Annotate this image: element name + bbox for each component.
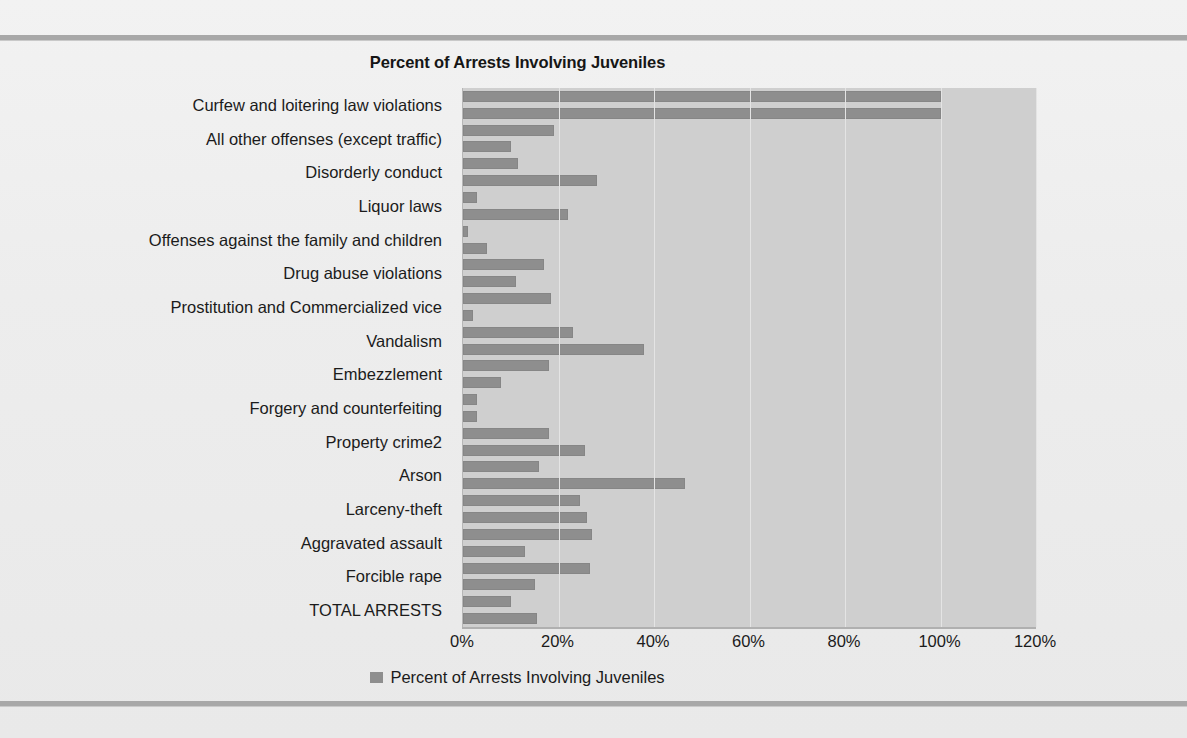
x-tick-label: 20% <box>541 632 574 651</box>
bar[interactable] <box>463 445 585 456</box>
bar-row <box>463 155 518 172</box>
category-label: Property crime2 <box>326 433 442 451</box>
bar-chart: Percent of Arrests Involving Juveniles C… <box>0 41 1187 701</box>
bar-row <box>463 593 511 610</box>
bar-row <box>463 223 468 240</box>
bar[interactable] <box>463 243 487 254</box>
bar-row <box>463 105 941 122</box>
bar[interactable] <box>463 478 685 489</box>
category-label: Forgery and counterfeiting <box>249 399 442 417</box>
chart-title: Percent of Arrests Involving Juveniles <box>0 53 1035 72</box>
bar[interactable] <box>463 158 518 169</box>
bar-row <box>463 492 580 509</box>
bar-row <box>463 475 685 492</box>
category-label: Vandalism <box>366 332 442 350</box>
category-label: Embezzlement <box>333 365 442 383</box>
chart-legend: Percent of Arrests Involving Juveniles <box>0 668 1035 687</box>
bar[interactable] <box>463 344 644 355</box>
bar[interactable] <box>463 209 568 220</box>
x-tick-label: 100% <box>918 632 960 651</box>
x-tick-label: 40% <box>636 632 669 651</box>
bar[interactable] <box>463 613 537 624</box>
bar[interactable] <box>463 461 539 472</box>
category-label: Offenses against the family and children <box>149 231 442 249</box>
bar[interactable] <box>463 512 587 523</box>
bar[interactable] <box>463 192 477 203</box>
bar[interactable] <box>463 428 549 439</box>
bar[interactable] <box>463 276 516 287</box>
bar[interactable] <box>463 310 473 321</box>
bar-row <box>463 576 535 593</box>
category-label: Curfew and loitering law violations <box>193 96 442 114</box>
category-label: Aggravated assault <box>301 534 442 552</box>
bar[interactable] <box>463 411 477 422</box>
bar[interactable] <box>463 546 525 557</box>
bar-row <box>463 122 554 139</box>
bar-row <box>463 240 487 257</box>
bar-row <box>463 391 477 408</box>
bar-row <box>463 526 592 543</box>
bar[interactable] <box>463 259 544 270</box>
x-tick-label: 60% <box>732 632 765 651</box>
bar-row <box>463 172 597 189</box>
plot-area <box>462 88 1036 627</box>
bar-row <box>463 341 644 358</box>
bar-row <box>463 509 587 526</box>
gridline <box>750 88 751 627</box>
bar[interactable] <box>463 125 554 136</box>
category-label: All other offenses (except traffic) <box>206 130 442 148</box>
bar[interactable] <box>463 579 535 590</box>
gridline <box>654 88 655 627</box>
legend-label: Percent of Arrests Involving Juveniles <box>390 668 664 687</box>
category-label: Prostitution and Commercialized vice <box>171 298 442 316</box>
bar[interactable] <box>463 377 501 388</box>
bar-row <box>463 543 525 560</box>
bar-row <box>463 290 551 307</box>
top-divider-rule <box>0 35 1187 40</box>
bar-row <box>463 88 941 105</box>
bar-row <box>463 442 585 459</box>
bar-row <box>463 256 544 273</box>
bar[interactable] <box>463 596 511 607</box>
bar[interactable] <box>463 175 597 186</box>
bar-row <box>463 425 549 442</box>
x-axis-labels: 0%20%40%60%80%100%120% <box>462 632 1035 658</box>
bar[interactable] <box>463 108 941 119</box>
bar-row <box>463 459 539 476</box>
x-tick-label: 120% <box>1014 632 1056 651</box>
bar[interactable] <box>463 360 549 371</box>
plot-baseline <box>462 627 1036 629</box>
gridline <box>559 88 560 627</box>
x-tick-label: 80% <box>827 632 860 651</box>
category-label: Drug abuse violations <box>283 264 442 282</box>
x-tick-label: 0% <box>450 632 474 651</box>
bar-row <box>463 139 511 156</box>
category-axis-labels: Curfew and loitering law violationsAll o… <box>0 88 452 627</box>
bar-row <box>463 358 549 375</box>
bar[interactable] <box>463 327 573 338</box>
bar[interactable] <box>463 226 468 237</box>
category-label: Liquor laws <box>359 197 442 215</box>
bar-row <box>463 610 537 627</box>
bar-row <box>463 374 501 391</box>
bar[interactable] <box>463 293 551 304</box>
bar[interactable] <box>463 563 590 574</box>
category-label: Larceny-theft <box>346 500 442 518</box>
bar-row <box>463 206 568 223</box>
chart-page: Percent of Arrests Involving Juveniles C… <box>0 0 1187 738</box>
bar[interactable] <box>463 394 477 405</box>
bar-row <box>463 307 473 324</box>
bar[interactable] <box>463 91 941 102</box>
gridline <box>1036 88 1037 627</box>
category-label: Forcible rape <box>346 567 442 585</box>
bar[interactable] <box>463 141 511 152</box>
bar[interactable] <box>463 529 592 540</box>
bar[interactable] <box>463 495 580 506</box>
bar-row <box>463 189 477 206</box>
gridline <box>845 88 846 627</box>
bar-row <box>463 324 573 341</box>
gridline <box>941 88 942 627</box>
bottom-divider-rule <box>0 701 1187 706</box>
category-label: TOTAL ARRESTS <box>309 601 442 619</box>
bar-row <box>463 408 477 425</box>
